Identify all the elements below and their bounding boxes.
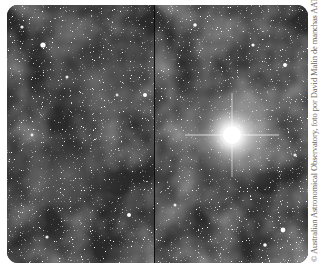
- image-credit: © Australian Astronomical Observatory, f…: [309, 0, 319, 262]
- astronomy-photo-frame: [7, 5, 308, 263]
- star-field-right-panel: [155, 5, 308, 263]
- star-field-left-panel: [7, 5, 154, 263]
